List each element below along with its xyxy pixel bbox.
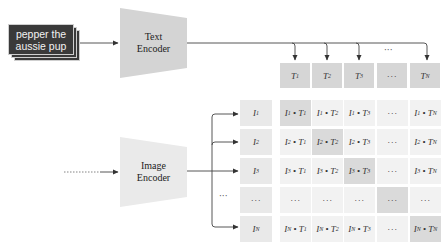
text-embedding-cell: T1: [280, 63, 310, 88]
matrix-cell: I1 • T2: [312, 100, 343, 126]
text-encoder-line1: Text: [120, 31, 187, 43]
matrix-cell: IN • T2: [312, 216, 343, 242]
matrix-cell-diagonal: I2 • T2: [312, 129, 343, 155]
text-embedding-cell: T2: [312, 63, 342, 88]
text-embedding-cell: TN: [410, 63, 440, 88]
image-encoder-line2: Encoder: [120, 172, 187, 184]
image-encoder-line1: Image: [120, 160, 187, 172]
input-text-line1: pepper the: [16, 28, 67, 40]
matrix-cell: ···: [280, 187, 311, 213]
image-embedding-cell: IN: [240, 216, 272, 242]
matrix-cell: I3 • TN: [410, 158, 441, 184]
image-encoder: Image Encoder: [120, 160, 187, 184]
matrix-cell: I2 • TN: [410, 129, 441, 155]
matrix-cell: ···: [377, 216, 408, 242]
image-embedding-cell: I1: [240, 100, 272, 126]
image-embedding-cell: I3: [240, 158, 272, 184]
matrix-cell: ···: [344, 187, 375, 213]
text-embedding-cell: T3: [344, 63, 374, 88]
text-encoder: Text Encoder: [120, 31, 187, 55]
matrix-cell: ···: [377, 100, 408, 126]
matrix-cell: I1 • T3: [344, 100, 375, 126]
matrix-cell: ···: [410, 187, 441, 213]
matrix-cell: I2 • T1: [280, 129, 311, 155]
matrix-cell: I1 • TN: [410, 100, 441, 126]
matrix-cell-diagonal: I3 • T3: [344, 158, 375, 184]
input-text-line2: aussie pup: [16, 40, 67, 52]
matrix-cell: I3 • T2: [312, 158, 343, 184]
text-bus-ellipsis: ···: [384, 45, 393, 55]
matrix-cell-diagonal: I1 • T1: [280, 100, 311, 126]
text-card-front: pepper the aussie pup: [8, 24, 74, 55]
matrix-cell-diagonal: IN • TN: [410, 216, 441, 242]
matrix-cell: ···: [377, 158, 408, 184]
matrix-cell: I2 • T3: [344, 129, 375, 155]
text-embedding-cell: ···: [377, 63, 407, 88]
matrix-cell: I3 • T1: [280, 158, 311, 184]
image-embedding-cell: I2: [240, 129, 272, 155]
text-encoder-line2: Encoder: [120, 43, 187, 55]
matrix-cell-diagonal: ···: [377, 187, 408, 213]
matrix-cell: IN • T1: [280, 216, 311, 242]
matrix-cell: IN • T3: [344, 216, 375, 242]
image-embedding-cell: ···: [240, 187, 272, 213]
branch-ellipsis: ···: [219, 191, 228, 201]
matrix-cell: ···: [312, 187, 343, 213]
matrix-cell: ···: [377, 129, 408, 155]
